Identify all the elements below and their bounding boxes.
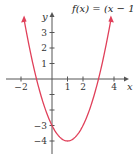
- x-tick-label: 2: [80, 82, 86, 92]
- x-tick-label: 1: [65, 82, 71, 92]
- y-tick-label: −3: [34, 121, 48, 131]
- x-tick-label: −2: [14, 82, 27, 92]
- y-tick-label: 1: [41, 59, 47, 69]
- title-pre: f(x) = (x − 1): [72, 3, 134, 14]
- x-tick-label: 4: [111, 82, 117, 92]
- chart-title: f(x) = (x − 1)2 − 4: [72, 2, 134, 14]
- y-tick-label: 3: [41, 28, 47, 38]
- y-axis-label: y: [41, 11, 48, 22]
- y-tick-label: −4: [34, 136, 48, 146]
- curve-arrow-right-icon: [108, 15, 114, 22]
- curve-arrow-left-icon: [21, 15, 27, 22]
- parabola-chart: −2124321−3−4xy: [0, 0, 134, 154]
- y-tick-label: 2: [41, 43, 47, 53]
- y-axis-arrow-icon: [50, 12, 55, 17]
- x-axis-label: x: [127, 81, 133, 92]
